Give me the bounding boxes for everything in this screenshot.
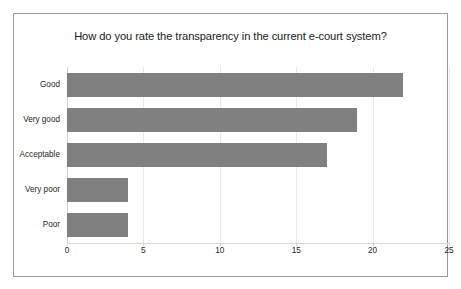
category-axis-labels: GoodVery goodAcceptableVery poorPoor	[14, 67, 67, 243]
x-axis-tick-label: 15	[292, 246, 301, 255]
x-axis-tick-label: 0	[65, 246, 70, 255]
x-axis-tick-label: 5	[141, 246, 146, 255]
x-axis-line	[67, 243, 449, 244]
bar[interactable]	[67, 213, 128, 237]
x-axis-tick-label: 25	[444, 246, 453, 255]
category-label: Acceptable	[19, 143, 60, 167]
category-label: Very poor	[25, 178, 60, 202]
bar[interactable]	[67, 108, 357, 132]
bar[interactable]	[67, 178, 128, 202]
category-label: Poor	[43, 213, 60, 237]
x-axis-tick-label: 20	[368, 246, 377, 255]
plot-area	[67, 67, 449, 243]
chart-frame: How do you rate the transparency in the …	[13, 13, 448, 277]
x-axis-tick-labels: 0510152025	[67, 246, 449, 262]
category-label: Good	[40, 73, 60, 97]
category-label: Very good	[23, 108, 60, 132]
gridline	[449, 67, 450, 243]
bar[interactable]	[67, 73, 403, 97]
bar[interactable]	[67, 143, 327, 167]
x-axis-tick-label: 10	[215, 246, 224, 255]
chart-title: How do you rate the transparency in the …	[14, 30, 447, 42]
